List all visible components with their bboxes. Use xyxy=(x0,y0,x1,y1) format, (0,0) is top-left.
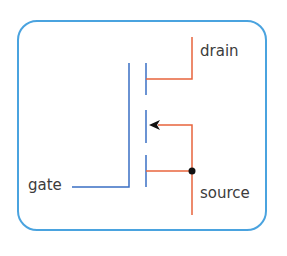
drain-label: drain xyxy=(200,44,239,59)
drain-wire xyxy=(146,37,192,79)
gate-label: gate xyxy=(28,178,62,193)
source-wire xyxy=(146,125,192,215)
source-label: source xyxy=(200,186,250,201)
gate-wire xyxy=(72,63,129,187)
junction-dot xyxy=(189,168,196,175)
mosfet-symbol xyxy=(0,0,287,256)
